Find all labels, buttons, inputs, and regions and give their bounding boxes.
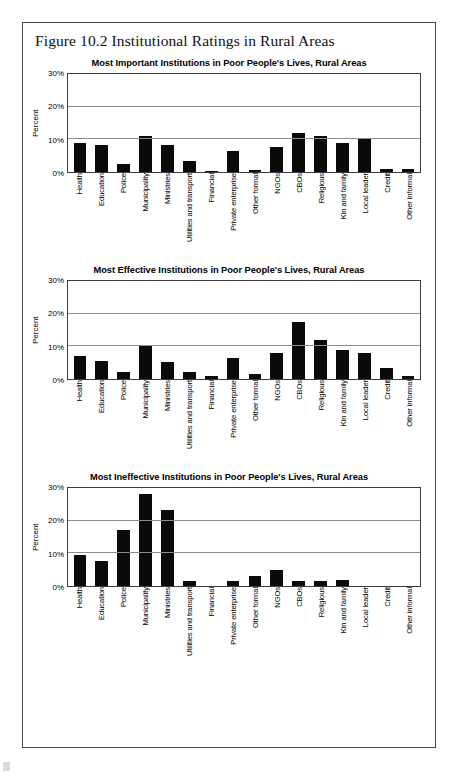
y-axis-ticks-effective: 0%10%20%30% [41, 280, 67, 380]
x-tick-label: Education [97, 587, 106, 622]
bar-cell [69, 74, 91, 172]
bar [270, 147, 283, 172]
x-tick: Municipality [134, 380, 156, 466]
y-tick-label: 20% [48, 102, 64, 111]
chart-block-ineffective: Most Ineffective Institutions in Poor Pe… [23, 466, 435, 673]
x-tick: Religious [310, 173, 332, 259]
bar-cell [200, 74, 222, 172]
bar [74, 143, 87, 172]
bar [270, 353, 283, 379]
chart-block-effective: Most Effective Institutions in Poor Peop… [23, 259, 435, 466]
x-tick-label: Other formal [251, 587, 260, 630]
x-tick-label: Financial [207, 587, 216, 619]
x-tick: Municipality [134, 173, 156, 259]
chart-body-important: Percent 0%10%20%30% HealthEducationPolic… [23, 73, 435, 259]
x-tick-label: Credit [383, 380, 392, 402]
x-tick: Private enterprise [222, 173, 244, 259]
bar [292, 322, 305, 379]
x-tick-label: Kin and family [339, 587, 348, 635]
x-tick: Local leader [354, 173, 376, 259]
x-tick: Religious [310, 380, 332, 466]
x-tick-label: Other formal [251, 173, 260, 216]
bar-cell [375, 281, 397, 379]
chart-title-effective: Most Effective Institutions in Poor Peop… [23, 259, 435, 280]
x-tick-label: Religious [317, 587, 326, 619]
x-tick: Other formal [244, 587, 266, 673]
y-axis-ticks-important: 0%10%20%30% [41, 73, 67, 173]
x-tick-label: Health [75, 380, 84, 403]
bar-cell [91, 281, 113, 379]
x-tick: Other informal [398, 587, 420, 673]
y-tick-label: 0% [52, 583, 64, 592]
x-tick-label: Utilities and transport [185, 173, 194, 244]
x-tick-label: Other informal [405, 380, 414, 429]
bar-cell [157, 281, 179, 379]
x-tick-label: Utilities and transport [185, 380, 194, 451]
x-tick-label: Financial [207, 380, 216, 412]
gridline [68, 313, 420, 314]
x-tick-label: Police [119, 380, 128, 402]
bar [161, 362, 174, 379]
x-tick: Financial [200, 587, 222, 673]
x-tick-label: Municipality [141, 173, 150, 213]
x-tick: Police [112, 587, 134, 673]
x-tick: Religious [310, 587, 332, 673]
x-axis-labels-ineffective: HealthEducationPoliceMunicipalityMinistr… [67, 587, 421, 673]
x-tick: Police [112, 380, 134, 466]
x-tick: Private enterprise [222, 587, 244, 673]
bar-cell [157, 74, 179, 172]
chart-block-important: Most Important Institutions in Poor Peop… [23, 52, 435, 259]
bar [314, 581, 327, 586]
bar [139, 136, 152, 172]
bar [74, 555, 87, 586]
bar [227, 581, 240, 586]
bar-cell [135, 74, 157, 172]
x-tick: Police [112, 173, 134, 259]
x-tick-label: Kin and family [339, 380, 348, 428]
bar [380, 169, 393, 172]
gridline [68, 345, 420, 346]
x-tick-label: Education [97, 173, 106, 208]
x-tick: Ministries [156, 587, 178, 673]
y-tick-label: 30% [48, 69, 64, 78]
bar [117, 530, 130, 586]
x-tick-label: Credit [383, 173, 392, 195]
bar-cell [244, 281, 266, 379]
x-tick: Education [90, 587, 112, 673]
gridline [68, 138, 420, 139]
x-tick-label: Ministries [163, 587, 172, 620]
x-tick: Health [68, 587, 90, 673]
plot-wrap-effective: HealthEducationPoliceMunicipalityMinistr… [67, 280, 421, 466]
bar [95, 361, 108, 379]
x-tick: Ministries [156, 380, 178, 466]
bar-cell [288, 74, 310, 172]
x-axis-labels-effective: HealthEducationPoliceMunicipalityMinistr… [67, 380, 421, 466]
x-tick: Ministries [156, 173, 178, 259]
bar-cell [310, 488, 332, 586]
x-tick-label: Municipality [141, 380, 150, 420]
x-tick-label: Private enterprise [229, 380, 238, 440]
bar-cell [244, 74, 266, 172]
bar [139, 346, 152, 379]
bar [95, 145, 108, 172]
bar-cell [135, 281, 157, 379]
bar [358, 139, 371, 172]
bar [380, 368, 393, 379]
gridline [68, 106, 420, 107]
bar-cell [178, 281, 200, 379]
x-tick: Credit [376, 173, 398, 259]
bar [95, 561, 108, 586]
bar-cell [397, 488, 419, 586]
plot-area-ineffective [67, 487, 421, 587]
x-tick: Other informal [398, 173, 420, 259]
x-tick-label: CBOs [295, 587, 304, 609]
x-tick-label: Local leader [361, 380, 370, 422]
y-tick-label: 30% [48, 483, 64, 492]
bar [161, 510, 174, 586]
x-tick-label: Kin and family [339, 173, 348, 221]
x-tick: Local leader [354, 587, 376, 673]
x-tick: Kin and family [332, 173, 354, 259]
bar-cell [397, 74, 419, 172]
bar [139, 494, 152, 586]
x-tick-label: Police [119, 173, 128, 195]
